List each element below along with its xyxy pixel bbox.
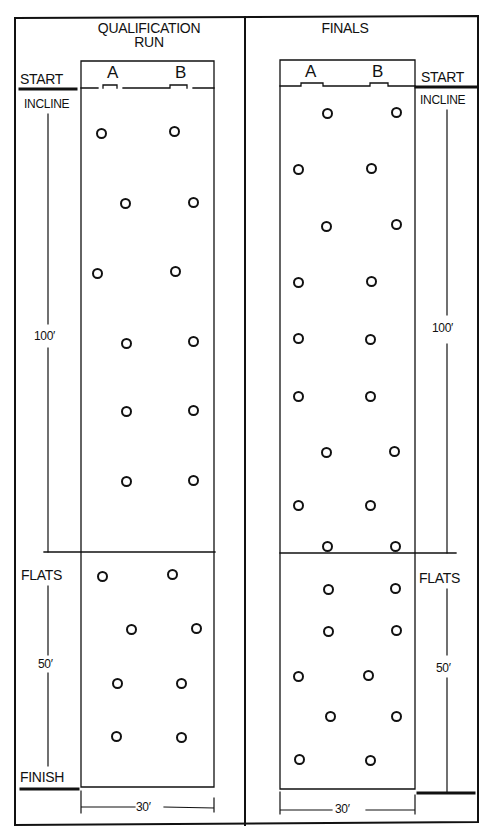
- gate-marker-icon: [366, 163, 377, 174]
- outer-frame: [15, 16, 478, 825]
- qualification-start-label: START: [20, 72, 63, 86]
- gate-marker-icon: [365, 334, 376, 345]
- gate-marker-icon: [126, 624, 137, 635]
- gate-marker-icon: [170, 266, 181, 277]
- qualification-start-line: [81, 85, 214, 88]
- gate-marker-icon: [92, 268, 103, 279]
- finals-width-label: 30′: [335, 803, 350, 815]
- qualification-title-line1: QUALIFICATION: [82, 21, 216, 35]
- gate-marker-icon: [322, 108, 333, 119]
- finals-start-label: START: [421, 70, 464, 84]
- finals-title: FINALS: [300, 21, 390, 35]
- gate-marker-icon: [293, 164, 304, 175]
- gate-marker-icon: [120, 198, 131, 209]
- finals-lane-b-label: B: [372, 63, 383, 80]
- finals-incline-label: INCLINE: [420, 94, 465, 106]
- qualification-title: QUALIFICATION RUN: [82, 21, 216, 49]
- finals-flats-length: 50′: [436, 662, 451, 674]
- gate-marker-icon: [293, 391, 304, 402]
- gate-marker-icon: [188, 405, 199, 416]
- gate-marker-icon: [191, 623, 202, 634]
- finals-incline-length: 100′: [432, 322, 453, 334]
- gate-marker-icon: [391, 625, 402, 636]
- gate-marker-icon: [365, 500, 376, 511]
- gate-marker-icon: [389, 446, 400, 457]
- gate-marker-icon: [176, 678, 187, 689]
- qualification-incline-length: 100′: [34, 330, 55, 342]
- gate-marker-icon: [322, 541, 333, 552]
- qualification-flats-length: 50′: [38, 658, 53, 670]
- gate-marker-icon: [321, 221, 332, 232]
- gate-marker-icon: [121, 476, 132, 487]
- gate-marker-icon: [391, 107, 402, 118]
- qualification-flats-label: FLATS: [21, 568, 62, 582]
- gate-marker-icon: [112, 678, 123, 689]
- qualification-lane-b-label: B: [175, 64, 186, 81]
- gate-marker-icon: [97, 571, 108, 582]
- qualification-lane-a-label: A: [107, 64, 118, 81]
- gate-marker-icon: [169, 126, 180, 137]
- qualification-course-box: [81, 61, 214, 787]
- gate-marker-icon: [121, 338, 132, 349]
- qualification-incline-label: INCLINE: [24, 98, 69, 110]
- gate-marker-icon: [390, 541, 401, 552]
- finals-flats-label: FLATS: [419, 571, 460, 585]
- gate-marker-icon: [323, 626, 334, 637]
- gate-marker-icon: [176, 732, 187, 743]
- gate-marker-icon: [111, 731, 122, 742]
- gate-marker-icon: [121, 406, 132, 417]
- gate-marker-icon: [294, 754, 305, 765]
- gate-marker-icon: [391, 219, 402, 230]
- gate-marker-icon: [391, 711, 402, 722]
- gate-marker-icon: [188, 336, 199, 347]
- gate-marker-icon: [365, 755, 376, 766]
- finals-lane-a-label: A: [305, 63, 316, 80]
- finals-start-line: [280, 83, 415, 86]
- gate-marker-icon: [365, 391, 376, 402]
- gate-marker-icon: [323, 584, 334, 595]
- gate-marker-icon: [321, 447, 332, 458]
- qualification-width-label: 30′: [136, 801, 151, 813]
- gate-marker-icon: [293, 500, 304, 511]
- gate-marker-icon: [293, 671, 304, 682]
- gate-marker-icon: [293, 333, 304, 344]
- gate-marker-icon: [363, 670, 374, 681]
- gate-marker-icon: [188, 197, 199, 208]
- gate-marker-icon: [293, 277, 304, 288]
- gate-marker-icon: [188, 475, 199, 486]
- gate-marker-icon: [390, 583, 401, 594]
- slalom-course-diagram: [0, 0, 494, 837]
- gate-marker-icon: [366, 276, 377, 287]
- gate-marker-icon: [167, 569, 178, 580]
- gate-marker-icon: [325, 711, 336, 722]
- qualification-title-line2: RUN: [82, 35, 216, 49]
- gate-marker-icon: [96, 128, 107, 139]
- qualification-finish-label: FINISH: [20, 770, 64, 784]
